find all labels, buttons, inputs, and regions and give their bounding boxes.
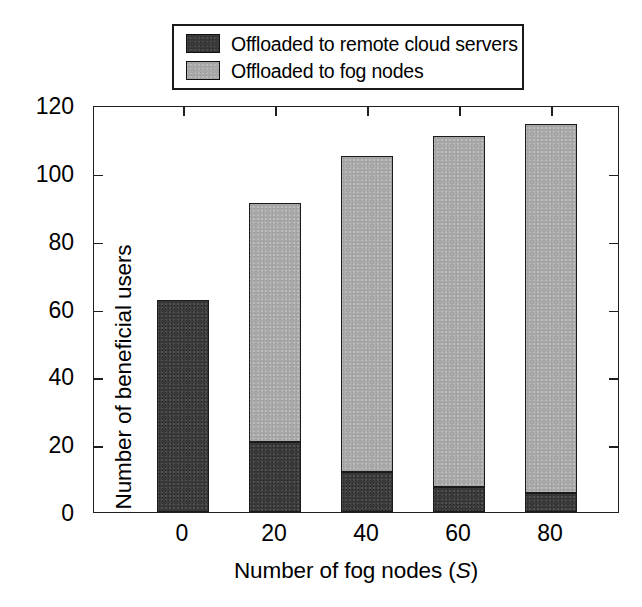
- x-tick-label-60: 60: [445, 520, 471, 546]
- bar-segment-fog: [433, 136, 485, 487]
- y-tick-label-0: 0: [61, 502, 74, 525]
- x-tick-label-20: 20: [261, 520, 287, 546]
- bar-group: [94, 107, 618, 512]
- legend-swatch-cloud-icon: [186, 34, 220, 53]
- bar-segment-fog: [249, 203, 301, 442]
- bar-segment-cloud: [157, 300, 209, 512]
- x-axis-title-prefix: Number of fog nodes (: [234, 558, 456, 583]
- y-tick-label-80: 80: [48, 230, 74, 253]
- bar-segment-fog: [341, 156, 393, 472]
- legend-entry-fog: Offloaded to fog nodes: [186, 59, 512, 82]
- y-tick-label-120: 120: [36, 95, 74, 118]
- bar-segment-cloud: [249, 442, 301, 512]
- legend-label-cloud: Offloaded to remote cloud servers: [231, 33, 518, 55]
- bar-segment-cloud: [525, 493, 577, 512]
- x-tick-label-40: 40: [353, 520, 379, 546]
- bar-s60: [433, 136, 485, 512]
- chart-legend: Offloaded to remote cloud servers Offloa…: [172, 24, 524, 90]
- y-tick-label-40: 40: [48, 366, 74, 389]
- bar-s80: [525, 124, 577, 512]
- y-tick-label-60: 60: [48, 298, 74, 321]
- legend-label-fog: Offloaded to fog nodes: [231, 60, 424, 82]
- x-axis-title-symbol: S: [456, 558, 471, 583]
- bar-s40: [341, 156, 393, 512]
- y-tick-label-20: 20: [48, 434, 74, 457]
- bar-s0: [157, 300, 209, 512]
- plot-area: Number of beneficial users: [93, 106, 619, 513]
- x-tick-label-0: 0: [176, 520, 189, 546]
- x-axis-tick-labels: 0 20 40 60 80: [93, 520, 619, 550]
- bar-segment-cloud: [341, 472, 393, 512]
- x-tick-label-80: 80: [537, 520, 563, 546]
- bar-segment-fog: [525, 124, 577, 494]
- chart-figure: Offloaded to remote cloud servers Offloa…: [0, 0, 642, 607]
- bar-s20: [249, 203, 301, 512]
- x-axis-title-suffix: ): [471, 558, 478, 583]
- y-tick-label-100: 100: [36, 162, 74, 185]
- legend-entry-cloud: Offloaded to remote cloud servers: [186, 32, 512, 55]
- y-axis-title: Number of beneficial users: [112, 177, 136, 577]
- legend-swatch-fog-icon: [186, 61, 220, 80]
- y-axis-tick-labels: 0 20 40 60 80 100 120: [0, 106, 84, 513]
- bar-segment-cloud: [433, 487, 485, 512]
- x-axis-title: Number of fog nodes (S): [93, 558, 619, 584]
